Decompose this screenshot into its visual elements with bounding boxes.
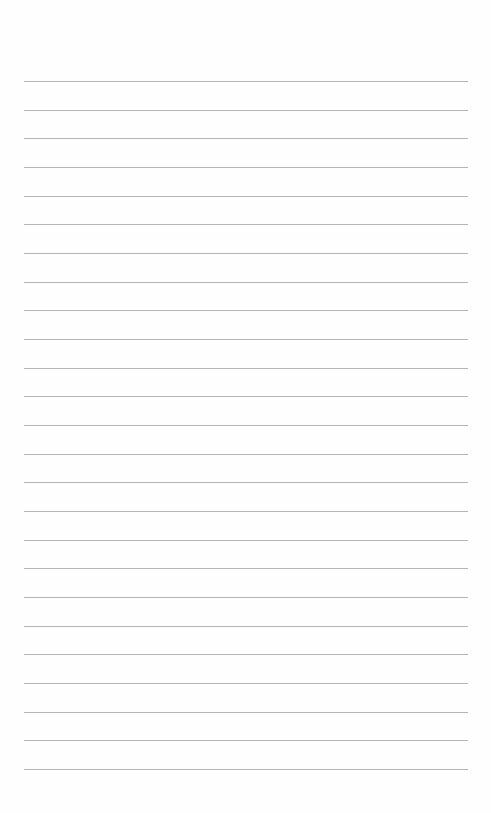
ruled-line [24,167,468,168]
ruled-line [24,224,468,225]
ruled-line [24,540,468,541]
ruled-line [24,712,468,713]
ruled-line [24,511,468,512]
ruled-line [24,568,468,569]
ruled-line [24,683,468,684]
ruled-line [24,482,468,483]
ruled-line [24,310,468,311]
ruled-line [24,339,468,340]
ruled-line [24,769,468,770]
ruled-line [24,396,468,397]
ruled-line [24,454,468,455]
ruled-line [24,138,468,139]
ruled-line [24,196,468,197]
ruled-line [24,740,468,741]
ruled-line [24,253,468,254]
lined-paper-page [0,0,491,813]
ruled-line [24,110,468,111]
ruled-line [24,282,468,283]
ruled-line [24,81,468,82]
ruled-line [24,626,468,627]
ruled-line [24,654,468,655]
ruled-line [24,597,468,598]
ruled-line [24,425,468,426]
ruled-line [24,368,468,369]
